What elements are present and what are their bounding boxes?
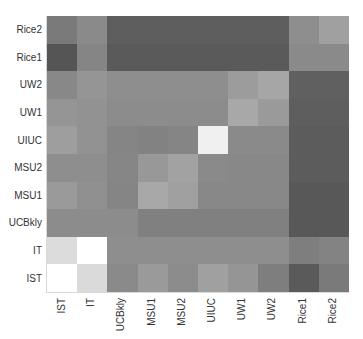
heatmap-cell [198, 264, 228, 292]
heatmap-cell [258, 209, 288, 237]
x-tick-label: UCBkly [116, 298, 127, 331]
heatmap-cell [319, 154, 349, 182]
heatmap-cell [138, 126, 168, 154]
heatmap-cell [198, 126, 228, 154]
y-tick-label: UW1 [0, 99, 42, 127]
y-tick-label: UW2 [0, 71, 42, 99]
heatmap-cell [77, 44, 107, 72]
heatmap-cell [107, 182, 137, 210]
heatmap-cell [228, 209, 258, 237]
heatmap-cell [289, 237, 319, 265]
heatmap-cell [258, 99, 288, 127]
heatmap-cell [319, 44, 349, 72]
heatmap-cell [258, 154, 288, 182]
heatmap-cell [138, 209, 168, 237]
x-tick-label: Rice1 [297, 298, 308, 324]
heatmap-cell [77, 154, 107, 182]
heatmap-cell [107, 16, 137, 44]
heatmap-cell [107, 71, 137, 99]
heatmap-cell [107, 44, 137, 72]
heatmap-cell [289, 154, 319, 182]
heatmap-cell [289, 71, 319, 99]
heatmap-figure: Rice2Rice1UW2UW1UIUCMSU2MSU1UCBklyITIST … [0, 0, 363, 339]
x-tick-label: Rice2 [327, 298, 338, 324]
heatmap-cell [168, 209, 198, 237]
heatmap-cell [47, 99, 77, 127]
heatmap-cell [228, 264, 258, 292]
heatmap-cell [77, 16, 107, 44]
heatmap-cell [228, 154, 258, 182]
heatmap-cell [77, 71, 107, 99]
heatmap-cell [107, 154, 137, 182]
x-tick-label: MSU2 [176, 298, 187, 326]
heatmap-cell [319, 99, 349, 127]
heatmap-cell [319, 264, 349, 292]
heatmap-cell [168, 71, 198, 99]
y-tick-label: Rice2 [0, 16, 42, 44]
heatmap-cell [198, 209, 228, 237]
heatmap-cell [198, 182, 228, 210]
heatmap-cell [47, 71, 77, 99]
heatmap-cell [107, 209, 137, 237]
y-tick-label: MSU1 [0, 182, 42, 210]
heatmap-cell [228, 237, 258, 265]
heatmap-cell [138, 71, 168, 99]
x-tick-slot: UIUC [197, 296, 227, 336]
heatmap-cell [77, 264, 107, 292]
heatmap-cell [168, 237, 198, 265]
heatmap-cell [289, 99, 319, 127]
x-tick-label: MSU1 [146, 298, 157, 326]
heatmap-cell [258, 237, 288, 265]
heatmap-cell [107, 264, 137, 292]
heatmap-cell [258, 44, 288, 72]
heatmap-cell [138, 44, 168, 72]
y-tick-label: UIUC [0, 126, 42, 154]
heatmap-cell [198, 237, 228, 265]
heatmap-cell [319, 16, 349, 44]
heatmap-cell [198, 154, 228, 182]
y-axis-labels: Rice2Rice1UW2UW1UIUCMSU2MSU1UCBklyITIST [0, 16, 42, 292]
heatmap-cell [107, 126, 137, 154]
x-tick-slot: MSU1 [137, 296, 167, 336]
x-tick-label: UW1 [236, 298, 247, 320]
heatmap-cell [138, 237, 168, 265]
heatmap-cell [168, 264, 198, 292]
y-tick-label: IST [0, 264, 42, 292]
heatmap-cell [319, 237, 349, 265]
heatmap-cell [168, 154, 198, 182]
heatmap-cell [47, 237, 77, 265]
heatmap-cell [168, 16, 198, 44]
heatmap-cell [289, 16, 319, 44]
heatmap-cell [228, 16, 258, 44]
x-tick-slot: UW1 [227, 296, 257, 336]
heatmap-cell [107, 237, 137, 265]
y-tick-label: MSU2 [0, 154, 42, 182]
heatmap-cell [258, 126, 288, 154]
heatmap-cell [77, 209, 107, 237]
heatmap-cell [228, 99, 258, 127]
heatmap-cell [77, 237, 107, 265]
x-tick-slot: UCBkly [106, 296, 136, 336]
heatmap-cell [289, 182, 319, 210]
heatmap-cell [168, 44, 198, 72]
heatmap-cell [47, 44, 77, 72]
heatmap-cell [138, 264, 168, 292]
heatmap-cell [198, 71, 228, 99]
x-tick-slot: IST [46, 296, 76, 336]
x-tick-label: UW2 [267, 298, 278, 320]
heatmap-cell [138, 16, 168, 44]
heatmap-cell [168, 182, 198, 210]
heatmap-cell [198, 16, 228, 44]
heatmap-cell [138, 99, 168, 127]
heatmap-cell [258, 16, 288, 44]
heatmap-cell [77, 126, 107, 154]
heatmap-cell [258, 182, 288, 210]
heatmap-cell [319, 126, 349, 154]
heatmap-cell [258, 71, 288, 99]
heatmap-cell [289, 126, 319, 154]
heatmap-cell [228, 71, 258, 99]
heatmap-cell [77, 182, 107, 210]
x-axis-labels: ISTITUCBklyMSU1MSU2UIUCUW1UW2Rice1Rice2 [46, 296, 348, 336]
heatmap-cell [289, 209, 319, 237]
heatmap-cell [228, 44, 258, 72]
